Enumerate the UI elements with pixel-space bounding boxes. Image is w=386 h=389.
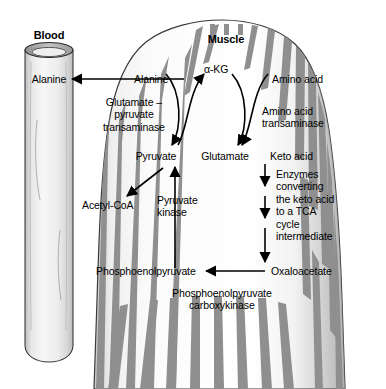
keto-acid-label: Keto acid — [270, 150, 313, 162]
pyruvate-label: Pyruvate — [136, 150, 177, 162]
blood-alanine-label: Alanine — [32, 73, 66, 85]
muscle-title: Muscle — [208, 33, 245, 45]
glutamate-label: Glutamate — [201, 150, 249, 162]
pyruvate-kinase-label: Pyruvate kinase — [157, 194, 198, 219]
glucose-alanine-cycle-figure: Blood Muscle Alanine Alanine α-KG Amino … — [0, 0, 386, 389]
amino-acid-transaminase-label: Amino acid transaminase — [262, 105, 324, 130]
alpha-kg-label: α-KG — [204, 63, 228, 75]
muscle-alanine-label: Alanine — [134, 73, 168, 85]
acetyl-coa-label: Acetyl-CoA — [82, 199, 134, 211]
glutamate-pyruvate-transaminase-label: Glutamate – pyruvate transaminase — [103, 96, 165, 133]
blood-title: Blood — [34, 29, 65, 41]
pepck-label: Phosphoenolpyruvate carboxykinase — [172, 287, 272, 312]
oxaloacetate-label: Oxaloacetate — [271, 265, 332, 277]
amino-acid-label: Amino acid — [272, 73, 323, 85]
enzymes-converting-label: Enzymes converting the keto acid to a TC… — [276, 168, 334, 242]
blood-vessel — [25, 43, 73, 363]
phosphoenolpyruvate-label: Phosphoenolpyruvate — [96, 265, 196, 277]
